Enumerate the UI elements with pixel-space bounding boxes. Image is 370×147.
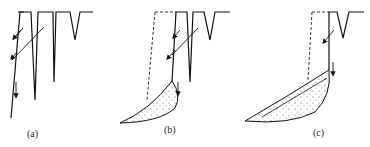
panel-label-c: (c) [313,127,324,139]
crack-profile [11,12,93,118]
debris-wedge [245,70,329,122]
original-slope-dashed [308,12,329,80]
crack-profile [172,12,230,82]
panel-a: (a) [11,12,93,140]
panel-label-a: (a) [27,128,38,140]
debris-wedge [120,81,178,123]
panel-label-b: (b) [164,124,176,136]
crack-profile [329,12,364,70]
slope-failure-diagram: (a) (b) (c) [0,0,370,147]
panel-c: (c) [245,12,364,139]
panel-b: (b) [120,12,230,136]
